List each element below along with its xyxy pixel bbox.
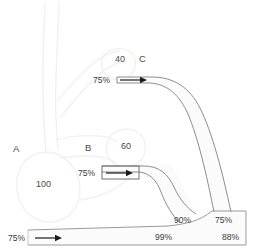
region-value-c: 40	[115, 54, 125, 64]
region-label-c: C	[139, 54, 146, 64]
region-value-b: 60	[121, 141, 131, 151]
flow-label-inflow-b: 75%	[78, 168, 95, 178]
region-value-a: 100	[36, 179, 51, 189]
stalk-outline	[43, 2, 46, 152]
anatomy-outline-group	[17, 2, 146, 222]
arrow-group	[35, 77, 147, 241]
flow-label-outflow-99: 99%	[155, 232, 172, 242]
region-label-b: B	[85, 143, 91, 153]
flow-label-outflow-88: 88%	[222, 232, 239, 242]
upper-branch-outline-2	[60, 62, 124, 118]
bottom-channel-group	[28, 211, 246, 245]
flow-label-outflow-75: 75%	[215, 215, 232, 225]
region-label-a: A	[13, 144, 19, 154]
upper-branch-outline	[58, 51, 120, 100]
flow-label-inflow-a: 75%	[8, 233, 25, 243]
bottom-channel-fill	[28, 212, 246, 245]
diagram-canvas: A 100 B 60 C 40 75% 75% 75% 90% 75% 99% …	[0, 0, 256, 252]
flow-label-outflow-90: 90%	[174, 215, 191, 225]
flow-label-inflow-c: 75%	[93, 75, 110, 85]
stalk-outline-right	[56, 2, 59, 150]
